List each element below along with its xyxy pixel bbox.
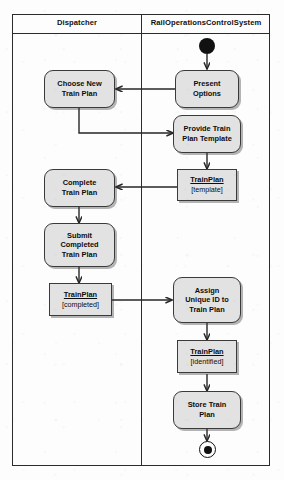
object-state: [completed] — [62, 300, 99, 310]
action-assign-unique-id-to-train-plan[interactable]: Assign Unique ID to Train Plan — [173, 277, 241, 323]
object-name: TrainPlan — [190, 347, 223, 357]
object-node-trainplan-identified[interactable]: TrainPlan [identified] — [177, 340, 237, 373]
action-present-options[interactable]: Present Options — [175, 70, 239, 108]
action-submit-completed-train-plan[interactable]: Submit Completed Train Plan — [44, 223, 115, 267]
object-state: [identified] — [191, 357, 224, 367]
final-node — [199, 441, 216, 458]
action-provide-train-plan-template[interactable]: Provide Train Plan Template — [173, 115, 241, 153]
activity-diagram-canvas: Dispatcher RailOperationsControlSystem — [0, 0, 284, 480]
action-store-train-plan[interactable]: Store Train Plan — [173, 391, 241, 429]
final-node-dot — [204, 446, 212, 454]
object-node-trainplan-completed[interactable]: TrainPlan [completed] — [49, 283, 112, 316]
edge-layer — [0, 0, 284, 480]
edge-choose-to-provide — [79, 108, 173, 133]
initial-node — [199, 38, 215, 54]
action-complete-train-plan[interactable]: Complete Train Plan — [44, 169, 115, 207]
object-name: TrainPlan — [64, 290, 97, 300]
action-choose-new-train-plan[interactable]: Choose New Train Plan — [44, 70, 115, 108]
object-name: TrainPlan — [190, 175, 223, 185]
object-state: [template] — [191, 185, 223, 195]
object-node-trainplan-template[interactable]: TrainPlan [template] — [177, 169, 237, 201]
